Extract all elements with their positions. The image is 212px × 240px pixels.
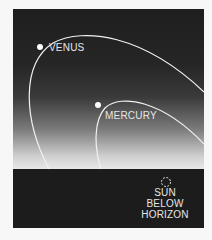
sun-label-line-1: SUN xyxy=(137,187,193,198)
mercury-dot-icon xyxy=(95,102,101,108)
sun-label-line-2: BELOW xyxy=(137,198,193,209)
sun-outline-icon xyxy=(162,178,171,187)
mercury-label: MERCURY xyxy=(105,110,157,121)
venus-dot-icon xyxy=(37,44,43,50)
venus-label: VENUS xyxy=(49,42,84,53)
sun-label-line-3: HORIZON xyxy=(137,209,193,220)
sun-label: SUN BELOW HORIZON xyxy=(137,187,193,220)
sky-diagram: VENUS MERCURY SUN BELOW HORIZON xyxy=(13,9,204,228)
